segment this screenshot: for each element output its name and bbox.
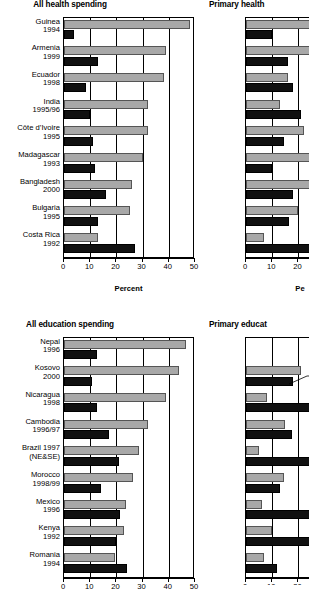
bar-poorest-morocco <box>246 473 284 482</box>
category-year: 1994 <box>36 26 61 35</box>
bar-richest-brazil- <box>64 457 119 466</box>
category-label-morocco: Morocco1998/99 <box>31 471 60 488</box>
bar-poorest-brazil- <box>64 446 139 455</box>
x-axis-title-primary-health: Pe <box>287 284 309 293</box>
panel-primary-health-spending: Primary health 01020 Pe <box>209 0 309 300</box>
axis-line <box>245 578 309 579</box>
category-year: 1992 <box>38 533 60 542</box>
category-year: 1998 <box>25 399 60 408</box>
category-year: (NE&SE) <box>22 453 60 462</box>
tick-label-40: 40 <box>164 582 172 591</box>
category-year: 1998/99 <box>31 480 60 489</box>
category-label-brazil-: Brazil 1997(NE&SE) <box>22 444 60 461</box>
panel-all-education-spending: All education spending Nepal1996Kosovo20… <box>0 320 209 585</box>
bar-richest-c-te-d-ivoire <box>64 137 93 146</box>
category-year: 2000 <box>35 373 60 382</box>
tick-label-20: 20 <box>111 582 119 591</box>
bar-poorest-armenia <box>64 46 166 55</box>
panel-all-health-spending: All health spending Guinea1994Armenia199… <box>0 0 209 300</box>
bar-richest-cambodia <box>64 430 109 439</box>
category-label-india: India1995/96 <box>33 98 60 115</box>
tick-label-50: 50 <box>190 262 198 271</box>
category-label-guinea: Guinea1994 <box>36 18 61 35</box>
category-label-bangladesh: Bangladesh2000 <box>20 178 60 195</box>
category-label-bulgaria: Bulgaria1995 <box>32 204 60 221</box>
tick-label-30: 30 <box>137 262 145 271</box>
bar-poorest-nepal <box>64 340 186 349</box>
category-year: 1995 <box>17 133 60 142</box>
tick-label-20: 20 <box>111 262 119 271</box>
bar-richest-nicaragua <box>246 403 309 412</box>
gridline-40 <box>169 18 170 257</box>
category-label-nicaragua: Nicaragua1998 <box>25 391 60 408</box>
tick-label-10: 10 <box>267 582 275 585</box>
axis-line <box>63 258 194 259</box>
bar-poorest-madagascar <box>246 153 309 162</box>
category-label-cambodia: Cambodia1996/97 <box>25 418 60 435</box>
category-labels-all-education: Nepal1996Kosovo2000Nicaragua1998Cambodia… <box>0 337 60 577</box>
bar-richest-madagascar <box>64 164 95 173</box>
bar-poorest-bangladesh <box>246 180 309 189</box>
category-year: 1995 <box>32 213 60 222</box>
panel-title-all-health-spending: All health spending <box>0 0 140 9</box>
category-label-mexico: Mexico1996 <box>36 498 60 515</box>
bar-richest-bulgaria <box>64 217 98 226</box>
bar-poorest-brazil- <box>246 446 259 455</box>
bar-poorest-mexico <box>64 500 126 509</box>
tick-label-30: 30 <box>137 582 145 591</box>
bar-richest-morocco <box>246 484 280 493</box>
bar-poorest-romania <box>64 553 115 562</box>
category-label-costa-rica: Costa Rica1992 <box>23 231 60 248</box>
bar-poorest-bulgaria <box>246 206 298 215</box>
panel-title-primary-education: Primary educat <box>209 320 309 329</box>
category-label-kosovo: Kosovo2000 <box>35 364 60 381</box>
tick-label-0: 0 <box>243 262 247 271</box>
panel-title-all-education-spending: All education spending <box>0 320 140 329</box>
bar-poorest-armenia <box>246 46 309 55</box>
category-label-madagascar: Madagascar1993 <box>18 151 60 168</box>
bar-richest-armenia <box>64 57 98 66</box>
category-year: 1992 <box>23 240 60 249</box>
bar-richest-costa-rica <box>64 244 135 253</box>
plot-area-all-health-spending <box>63 17 194 258</box>
category-label-nepal: Nepal1996 <box>40 338 60 355</box>
bar-richest-india <box>246 110 301 119</box>
bar-poorest-india <box>64 100 148 109</box>
tick-label-50: 50 <box>190 582 198 591</box>
bar-richest-costa-rica <box>246 244 309 253</box>
tick-label-10: 10 <box>85 582 93 591</box>
bar-poorest-kenya <box>64 526 124 535</box>
tick-label-10: 10 <box>267 262 275 271</box>
bar-richest-nepal <box>64 350 97 359</box>
category-year: 2000 <box>20 186 60 195</box>
bar-poorest-kenya <box>246 526 272 535</box>
bar-poorest-romania <box>246 553 264 562</box>
bar-richest-romania <box>64 564 127 573</box>
category-year: 1995/96 <box>33 106 60 115</box>
bar-poorest-ecuador <box>246 73 288 82</box>
category-label-kenya: Kenya1992 <box>38 524 60 541</box>
tick-label-0: 0 <box>61 262 65 271</box>
bar-poorest-costa-rica <box>64 233 98 242</box>
bar-richest-nicaragua <box>64 403 97 412</box>
category-label-ecuador: Ecuador1998 <box>32 71 60 88</box>
category-year: 1999 <box>32 53 60 62</box>
axis-line <box>63 578 194 579</box>
bar-richest-india <box>64 110 90 119</box>
bar-poorest-c-te-d-ivoire <box>64 126 148 135</box>
bar-richest-ecuador <box>64 83 86 92</box>
panel-primary-education-spending: Primary educat 01020 <box>209 320 309 585</box>
bar-richest-bangladesh <box>246 190 293 199</box>
bar-poorest-madagascar <box>64 153 143 162</box>
plot-area-primary-health-spending <box>245 17 309 258</box>
bar-poorest-ecuador <box>64 73 164 82</box>
bar-richest-kenya <box>64 537 116 546</box>
bar-richest-brazil- <box>246 457 309 466</box>
bar-richest-c-te-d-ivoire <box>246 137 284 146</box>
bar-richest-cambodia <box>246 430 292 439</box>
bar-richest-mexico <box>246 510 309 519</box>
category-label-armenia: Armenia1999 <box>32 44 60 61</box>
bar-richest-kenya <box>246 537 309 546</box>
category-year: 1994 <box>30 560 60 569</box>
